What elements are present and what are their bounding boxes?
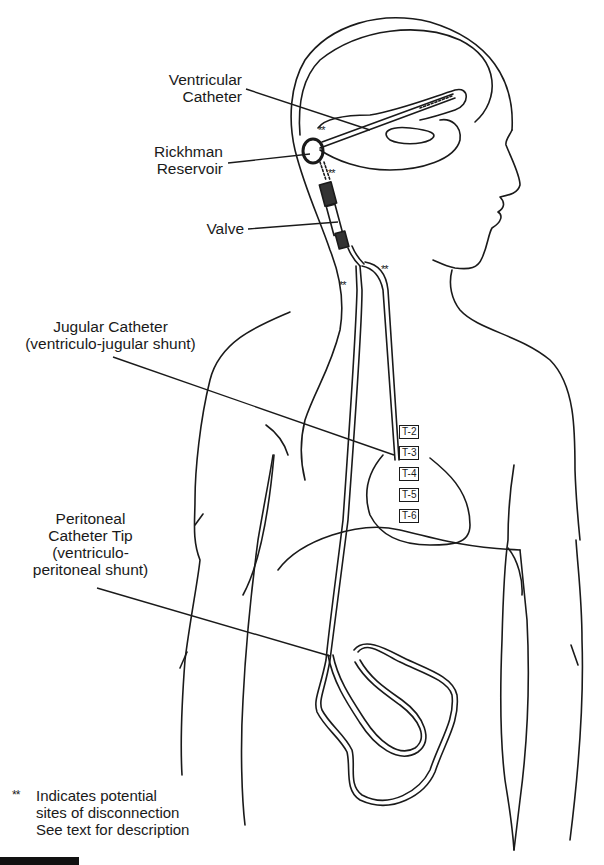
disconnection-marker-peritoneal: ** [339,279,346,291]
legend-marker: ** [12,787,19,804]
label-rickhman-reservoir: Rickhman Reservoir [130,143,223,177]
legend-line-2: sites of disconnection [36,804,189,821]
leader-lines [0,0,604,865]
vertebra-t2: T-2 [399,425,419,439]
vertebra-t5: T-5 [399,488,419,502]
vertebra-t6: T-6 [399,509,419,523]
label-ventricular-catheter: Ventricular Catheter [150,71,242,105]
label-peritoneal-catheter: Peritoneal Catheter Tip (ventriculo- per… [18,510,163,578]
leader-jugular-catheter [113,357,394,455]
diagram-canvas: Ventricular Catheter Rickhman Reservoir … [0,0,604,865]
leader-rickhman-reservoir [228,154,310,163]
disconnection-marker-reservoir-top: ** [318,124,325,136]
legend-line-3: See text for description [36,821,189,838]
vertebra-t3: T-3 [399,446,419,460]
label-jugular-catheter: Jugular Catheter (ventriculo-jugular shu… [8,318,213,352]
legend-line-1: Indicates potential [36,787,189,804]
footer-bar [0,857,79,865]
vertebra-t4: T-4 [399,467,419,481]
leader-peritoneal-catheter [97,588,330,656]
disconnection-marker-jugular: ** [381,263,388,275]
leader-ventricular-catheter [246,89,370,130]
disconnection-marker-reservoir-bottom: ** [328,167,335,179]
leader-valve [248,222,338,229]
label-valve: Valve [180,220,244,237]
